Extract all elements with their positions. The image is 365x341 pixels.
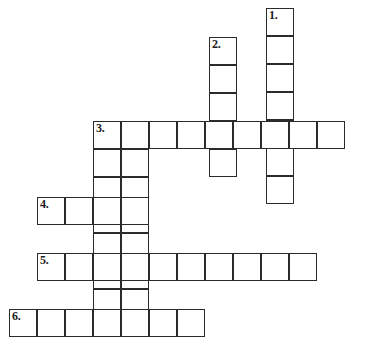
crossword-cell[interactable] [266, 148, 294, 176]
crossword-cell[interactable] [266, 92, 294, 120]
crossword-cell[interactable] [93, 197, 121, 225]
crossword-cell-numbered[interactable]: 2. [209, 37, 237, 65]
crossword-cell[interactable] [121, 121, 149, 149]
crossword-cell[interactable] [37, 309, 65, 337]
clue-number-label: 5. [40, 254, 49, 267]
clue-number-label: 1. [269, 9, 278, 22]
crossword-cell[interactable] [266, 64, 294, 92]
crossword-cell[interactable] [65, 309, 93, 337]
crossword-cell[interactable] [266, 176, 294, 204]
crossword-cell[interactable] [149, 309, 177, 337]
crossword-cell[interactable] [177, 121, 205, 149]
crossword-cell[interactable] [177, 253, 205, 281]
crossword-cell[interactable] [149, 121, 177, 149]
crossword-cell-numbered[interactable]: 3. [93, 121, 121, 149]
crossword-cell[interactable] [266, 36, 294, 64]
clue-number-label: 6. [12, 310, 21, 323]
crossword-cell[interactable] [233, 253, 261, 281]
crossword-cell[interactable] [289, 253, 317, 281]
crossword-cell[interactable] [149, 253, 177, 281]
crossword-cell[interactable] [209, 149, 237, 177]
crossword-cell-numbered[interactable]: 6. [9, 309, 37, 337]
crossword-cell-numbered[interactable]: 1. [266, 8, 294, 36]
crossword-cell[interactable] [93, 253, 121, 281]
crossword-puzzle-grid: 1.2.3.4.5.6. [0, 0, 365, 341]
crossword-cell[interactable] [209, 93, 237, 121]
crossword-cell[interactable] [205, 253, 233, 281]
crossword-cell[interactable] [121, 253, 149, 281]
crossword-cell[interactable] [121, 309, 149, 337]
crossword-cell[interactable] [261, 121, 289, 149]
crossword-cell[interactable] [121, 149, 149, 177]
crossword-cell-numbered[interactable]: 4. [37, 197, 65, 225]
crossword-cell-numbered[interactable]: 5. [37, 253, 65, 281]
crossword-cell[interactable] [289, 121, 317, 149]
clue-number-label: 2. [212, 38, 221, 51]
crossword-cell[interactable] [65, 253, 93, 281]
crossword-cell[interactable] [65, 197, 93, 225]
crossword-cell[interactable] [233, 121, 261, 149]
crossword-cell[interactable] [317, 121, 345, 149]
crossword-cell[interactable] [121, 197, 149, 225]
crossword-cell[interactable] [93, 149, 121, 177]
clue-number-label: 3. [96, 122, 105, 135]
crossword-cell[interactable] [261, 253, 289, 281]
clue-number-label: 4. [40, 198, 49, 211]
crossword-cell[interactable] [209, 65, 237, 93]
crossword-cell[interactable] [93, 309, 121, 337]
crossword-cell[interactable] [205, 121, 233, 149]
crossword-cell[interactable] [177, 309, 205, 337]
